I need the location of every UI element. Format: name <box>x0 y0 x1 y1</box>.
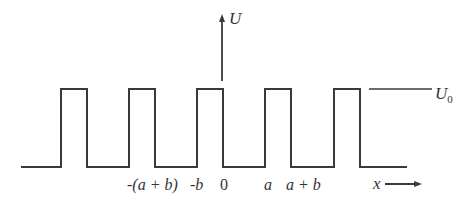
tick-label-neg-a-plus-b: -(a + b) <box>127 176 178 194</box>
potential-waveform <box>21 89 407 167</box>
tick-label-zero: 0 <box>220 176 228 193</box>
tick-label-neg-b: -b <box>190 176 203 193</box>
tick-label-a: a <box>264 176 272 193</box>
u-axis-label: U <box>229 9 243 28</box>
potential-diagram: U U0 x -(a + b) -b 0 a a + b <box>0 0 470 201</box>
tick-label-a-plus-b: a + b <box>286 176 321 193</box>
u0-label-subscript: 0 <box>447 93 453 105</box>
x-axis-label: x <box>372 174 381 193</box>
u0-label: U0 <box>435 84 453 105</box>
